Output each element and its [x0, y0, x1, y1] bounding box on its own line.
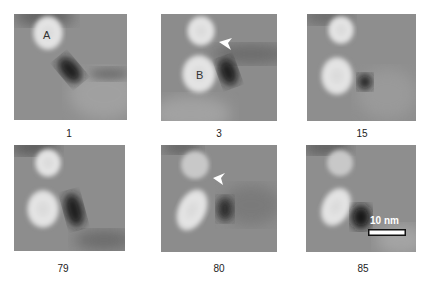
micrograph-frame-1: A — [14, 14, 127, 120]
particle-lower — [27, 190, 59, 228]
micrograph-frame-80 — [161, 145, 277, 252]
dark-spot — [358, 74, 372, 90]
frame-label: 1 — [39, 128, 99, 139]
frame-label: 15 — [332, 128, 392, 139]
dark-spot — [351, 205, 371, 229]
scale-bar — [370, 231, 405, 235]
frame-label: 3 — [189, 128, 249, 139]
particle-upper — [328, 16, 354, 44]
frame-label: 80 — [189, 263, 249, 274]
dark-spot — [217, 197, 233, 221]
particle-upper — [181, 151, 209, 179]
particle-upper — [327, 150, 353, 176]
micrograph-frame-85: 10 nm — [306, 145, 416, 252]
particle-upper — [35, 149, 61, 177]
micrograph-frame-15 — [307, 14, 416, 121]
particle-label-b: B — [196, 69, 203, 81]
micrograph-frame-3: B — [161, 14, 277, 121]
particle-upper — [187, 16, 215, 46]
micrograph-frame-79 — [14, 145, 125, 251]
frame-label: 85 — [333, 263, 393, 274]
frame-label: 79 — [33, 263, 93, 274]
scale-bar-label: 10 nm — [370, 215, 399, 226]
particle-label-a: A — [43, 29, 51, 41]
particle-lower — [321, 57, 353, 95]
